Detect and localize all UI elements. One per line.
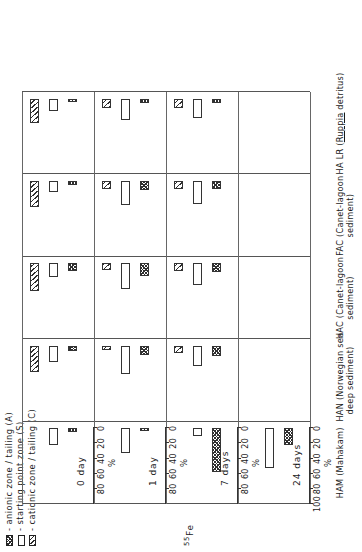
axis-tick-label: 20 [97, 438, 106, 449]
bar-cationic [174, 99, 183, 108]
category-label-line2: deep sediment) [346, 339, 356, 421]
bar-anionic [212, 99, 221, 104]
percent-axis-line [309, 428, 310, 504]
bar-anionic [68, 99, 77, 103]
bar-starting-point [193, 181, 202, 204]
bar-cationic [174, 263, 183, 271]
bar-starting-point [121, 181, 130, 205]
axis-tick-label: 60 [97, 468, 106, 479]
cat-han-label: HAN (Norwegian seadeep sediment) [336, 339, 355, 421]
bar-starting-point [49, 263, 58, 277]
bar-anionic [212, 181, 221, 189]
bar-anionic [140, 263, 149, 275]
percent-axis-line [237, 428, 238, 504]
diagonal-hatch-swatch-icon [29, 535, 36, 546]
panel-time-label: 7 days [220, 451, 230, 486]
axis-tick-label: 60 [169, 468, 178, 479]
panel-time-label: 1 day [148, 456, 158, 486]
percent-axis-line [165, 428, 166, 504]
bar-anionic [140, 428, 149, 431]
bar-anionic [212, 263, 221, 272]
bar-anionic [140, 346, 149, 355]
legend-label-anionic: anionic zone / tailing (A) [4, 412, 15, 525]
bar-cationic [30, 346, 39, 372]
category-label-line2: sediment) [346, 174, 356, 256]
bar-cationic [30, 263, 39, 290]
bar-cationic [102, 263, 111, 270]
axis-tick-label: 80 [97, 483, 106, 494]
bar-starting-point [193, 428, 202, 436]
bar-starting-point [49, 99, 58, 111]
axis-tick-label: 40 [313, 453, 322, 464]
bar-starting-point [193, 346, 202, 366]
axis-tick-label: 20 [169, 438, 178, 449]
open-swatch-icon [18, 535, 25, 546]
bar-anionic [68, 428, 77, 432]
axis-tick-label: 60 [241, 468, 250, 479]
axis-unit-label: % [251, 459, 261, 467]
legend-dash-cationic: - [27, 528, 38, 531]
dark-mesh-swatch-icon [6, 535, 13, 546]
axis-tick-label: 0 [97, 426, 106, 431]
bar-cationic [174, 346, 183, 354]
figure-canvas: - anionic zone / tailing (A) - starting … [0, 0, 362, 552]
axis-tick-label: 0 [313, 426, 322, 431]
bar-starting-point [49, 428, 58, 445]
axis-tick-label: 100 [313, 496, 322, 512]
bar-starting-point [193, 99, 202, 119]
panel-time-label: 24 days [292, 444, 302, 486]
axis-tick-label: 40 [241, 453, 250, 464]
bar-starting-point [121, 346, 130, 374]
cat-ham-label: HAM (Mahakam) [336, 422, 346, 504]
axis-tick-label: 20 [241, 438, 250, 449]
bar-anionic [212, 346, 221, 356]
bar-anionic [140, 99, 149, 104]
cat-halr-label: HA LR (Ruppia detritus) [336, 92, 346, 174]
bar-cationic [30, 99, 39, 123]
bar-starting-point [265, 428, 274, 467]
bar-anionic [68, 181, 77, 185]
axis-unit-label: % [107, 459, 117, 467]
axis-tick-label: 0 [241, 426, 250, 431]
bar-starting-point [193, 263, 202, 284]
axis-tick-label: 20 [313, 438, 322, 449]
bar-cationic [102, 346, 111, 350]
axis-tick-label: 80 [241, 483, 250, 494]
bar-starting-point [49, 346, 58, 363]
axis-tick-label: 60 [313, 468, 322, 479]
bar-cationic [174, 181, 183, 189]
bar-anionic [68, 263, 77, 271]
bar-starting-point [121, 428, 130, 453]
axis-tick-label: 0 [169, 426, 178, 431]
isotope-axis-label: 55Fe [183, 524, 195, 546]
axis-tick-label: 80 [313, 483, 322, 494]
bar-cationic [102, 181, 111, 189]
category-label-line2: sediment) [346, 257, 356, 339]
bar-starting-point [49, 181, 58, 192]
axis-tick-label: 40 [97, 453, 106, 464]
bar-anionic [284, 428, 293, 445]
figure-rotation-wrapper: - anionic zone / tailing (A) - starting … [0, 0, 362, 552]
axis-tick-label: 40 [169, 453, 178, 464]
cat-hac-label: HAC (Canet-lagoonsediment) [336, 257, 355, 339]
legend-dash-anionic: - [4, 528, 15, 531]
panel-separator [22, 92, 23, 504]
cat-fac-label: FAC (Canet-lagoonsediment) [336, 174, 355, 256]
axis-unit-label: % [179, 459, 189, 467]
bar-starting-point [121, 99, 130, 120]
bar-cationic [30, 181, 39, 207]
bar-anionic [140, 181, 149, 190]
panel-time-label: 0 day [76, 456, 86, 486]
percent-axis-line [93, 428, 94, 504]
legend-dash-starting: - [15, 528, 26, 531]
legend-item-anionic: - anionic zone / tailing (A) [4, 409, 15, 546]
axis-unit-label: % [323, 459, 333, 467]
axis-tick-label: 80 [169, 483, 178, 494]
bar-cationic [102, 99, 111, 109]
bar-starting-point [121, 263, 130, 289]
bar-anionic [68, 346, 77, 351]
